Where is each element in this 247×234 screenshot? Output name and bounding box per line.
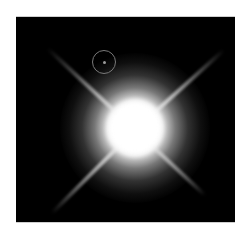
- star-image-frame: [16, 16, 235, 223]
- star-core: [106, 99, 164, 157]
- companion-object: [103, 61, 106, 64]
